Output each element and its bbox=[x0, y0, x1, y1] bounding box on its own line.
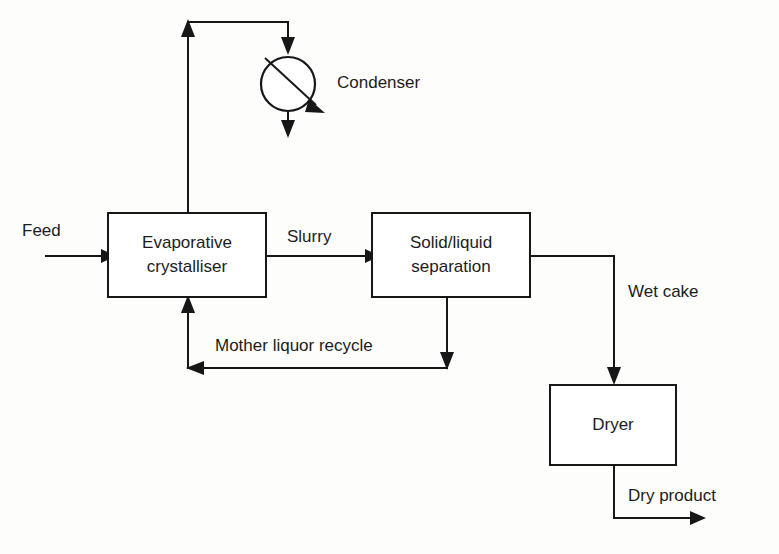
flowsheet-canvas: Evaporative crystalliser Solid/liquid se… bbox=[0, 0, 779, 554]
mother-liquor-recycle-line bbox=[188, 297, 447, 368]
slurry-label: Slurry bbox=[287, 227, 332, 246]
solid-liquid-separation-label-line-2: separation bbox=[411, 257, 490, 276]
dry-product-label: Dry product bbox=[628, 486, 716, 505]
unit-solid-liquid-separation[interactable]: Solid/liquid separation bbox=[372, 213, 530, 297]
dry-product-arrow-head bbox=[690, 511, 706, 525]
feed-label: Feed bbox=[22, 221, 61, 240]
vapour-line bbox=[188, 22, 288, 213]
stream-feed bbox=[45, 249, 116, 263]
stream-slurry bbox=[266, 249, 380, 263]
stream-vapour-to-condenser bbox=[181, 19, 295, 213]
wet-cake-arrow-head bbox=[607, 367, 621, 385]
stream-wet-cake bbox=[530, 256, 621, 385]
solid-liquid-separation-box[interactable] bbox=[372, 213, 530, 297]
unit-condenser[interactable] bbox=[261, 57, 325, 138]
wet-cake-line bbox=[530, 256, 614, 370]
vapour-to-condenser-arrow-head bbox=[281, 37, 295, 55]
process-flow-diagram: Evaporative crystalliser Solid/liquid se… bbox=[0, 0, 779, 554]
dryer-label: Dryer bbox=[592, 415, 634, 434]
unit-dryer[interactable]: Dryer bbox=[550, 385, 676, 465]
stream-mother-liquor-recycle bbox=[181, 295, 454, 375]
evaporative-crystalliser-label-line-1: Evaporative bbox=[142, 233, 232, 252]
condenser-circle bbox=[261, 57, 315, 111]
condenser-outlet-arrow-head bbox=[281, 120, 295, 138]
mother-liquor-recycle-label: Mother liquor recycle bbox=[215, 336, 373, 355]
evaporative-crystalliser-box[interactable] bbox=[108, 213, 266, 297]
condenser-label: Condenser bbox=[337, 73, 421, 92]
unit-evaporative-crystalliser[interactable]: Evaporative crystalliser bbox=[108, 213, 266, 297]
wet-cake-label: Wet cake bbox=[628, 282, 699, 301]
evaporative-crystalliser-label-line-2: crystalliser bbox=[147, 257, 228, 276]
solid-liquid-separation-label-line-1: Solid/liquid bbox=[410, 233, 492, 252]
